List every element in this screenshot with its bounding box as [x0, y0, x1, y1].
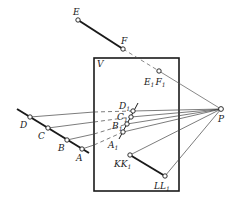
picture-plane-v [94, 58, 179, 191]
label-c: C [38, 131, 45, 141]
point-kk1 [128, 153, 132, 157]
ray-e1f1-to-p [159, 71, 221, 109]
label-kk1: KK1 [113, 159, 131, 170]
point-e1f1 [157, 69, 161, 73]
segment-ef [78, 20, 123, 49]
label-a1: A1 [107, 140, 118, 151]
label-b: B [57, 143, 65, 153]
label-b1: B1 [111, 121, 122, 132]
point-e [76, 18, 80, 22]
point-b [65, 138, 69, 142]
ray-f-to-e1f1-dashed [123, 49, 159, 71]
label-a: A [75, 153, 83, 163]
point-p [219, 107, 224, 112]
label-f: F [120, 36, 128, 46]
label-d: D [19, 120, 27, 130]
point-c [46, 126, 50, 130]
label-e: E [72, 7, 80, 17]
plane-label-v: V [97, 59, 105, 69]
label-p: P [217, 114, 225, 124]
point-d [28, 115, 32, 119]
label-d1: D1 [118, 101, 130, 112]
point-d1 [131, 109, 135, 113]
ray-ll1-to-p [165, 109, 221, 176]
perspective-projection-diagram: V [0, 0, 234, 205]
label-ll1: LL1 [153, 181, 170, 192]
segment-kk1-ll1 [130, 155, 165, 176]
point-f [121, 47, 125, 51]
label-e1f1: E1F1 [143, 77, 165, 88]
point-c1 [129, 115, 133, 119]
point-ll1 [163, 174, 167, 178]
point-a [80, 147, 84, 151]
